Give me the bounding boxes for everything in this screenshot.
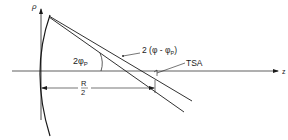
angle-outer-label: 2 (φ - φP) bbox=[142, 45, 177, 56]
ray-lower bbox=[49, 17, 184, 112]
mirror-surface bbox=[40, 15, 50, 136]
rho-axis-label: ρ bbox=[31, 2, 37, 11]
angle-outer-leader bbox=[123, 53, 140, 56]
dimension-numerator: R bbox=[81, 79, 87, 88]
tsa-label: TSA bbox=[186, 58, 203, 68]
z-axis-label: z bbox=[282, 68, 286, 75]
dimension-denominator: 2 bbox=[81, 88, 85, 97]
angle-arc-inner bbox=[100, 53, 102, 71]
optics-diagram: ρ z 2φP 2 (φ - φP) TSA R 2 bbox=[0, 0, 288, 140]
tsa-leader bbox=[157, 63, 185, 73]
angle-inner-label: 2φP bbox=[73, 56, 88, 67]
